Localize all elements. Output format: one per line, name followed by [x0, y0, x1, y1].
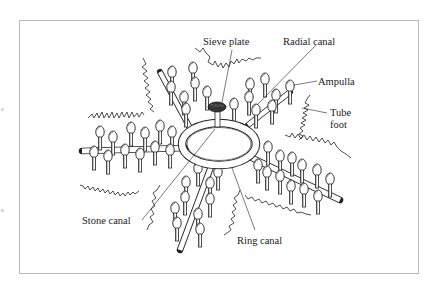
label-ring-canal: Ring canal: [237, 235, 282, 246]
ring-canal: [182, 123, 256, 165]
tube-feet-upper-right-arm: [230, 73, 294, 128]
label-stone-canal: Stone canal: [82, 215, 131, 226]
label-tube-foot-line1: Tube: [330, 107, 351, 118]
label-sieve-plate: Sieve plate: [203, 36, 249, 47]
label-tube-foot-line2: foot: [330, 119, 347, 130]
label-ampulla: Ampulla: [318, 76, 355, 87]
label-radial-canal: Radial canal: [283, 36, 335, 47]
